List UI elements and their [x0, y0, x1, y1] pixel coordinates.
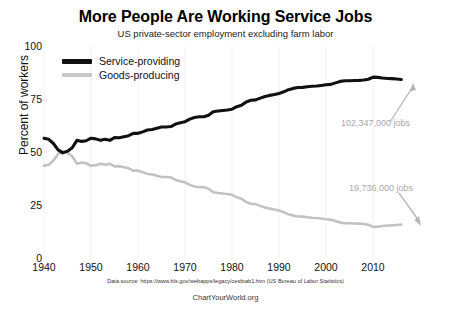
legend-item-service-providing: Service-providing — [62, 54, 180, 68]
series-line-service-providing — [44, 77, 401, 153]
legend-swatch-goods-producing — [62, 73, 92, 77]
service-jobs-annotation: 102,347,000 jobs — [341, 118, 410, 128]
legend-swatch-service-providing — [62, 59, 92, 64]
annotation-arrow-goods — [399, 193, 421, 226]
legend-label-goods-producing: Goods-producing — [99, 69, 180, 81]
annotation-arrow-service — [390, 83, 416, 122]
legend: Service-providing Goods-producing — [62, 54, 180, 82]
plot-area — [0, 0, 451, 313]
series-line-goods-producing — [44, 151, 401, 227]
legend-label-service-providing: Service-providing — [99, 55, 180, 67]
legend-item-goods-producing: Goods-producing — [62, 68, 180, 82]
credit-line: ChartYourWorld.org — [0, 293, 451, 302]
chart-container: More People Are Working Service Jobs US … — [0, 0, 451, 313]
source-note: Data source: https://www.bls.gov/webapps… — [0, 278, 451, 284]
goods-jobs-annotation: 19,736,000 jobs — [349, 183, 413, 193]
